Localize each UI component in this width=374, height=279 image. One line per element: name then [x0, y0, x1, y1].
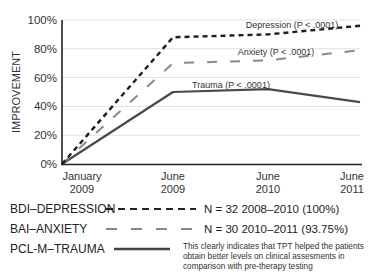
footnote: This clearly indicates that TPT helped t… — [183, 242, 373, 272]
legend-item-anxiety: BAI–ANXIETY N = 30 2010–2011 (93.75%) — [10, 220, 348, 238]
long-dash-line-icon — [104, 224, 198, 234]
legend-item-trauma: PCL-M–TRAUMA — [10, 240, 198, 258]
x-tick-label: 2010 — [256, 183, 280, 195]
legend-note: N = 30 2010–2011 (93.75%) — [204, 223, 348, 235]
x-tick-label: June — [340, 170, 364, 182]
y-tick-label: 0% — [40, 158, 57, 170]
series-annotations: Depression (P < .0001)Anxiety (P < .0001… — [192, 20, 338, 90]
x-tick-label: 2009 — [161, 183, 185, 195]
y-axis-label: IMPROVEMENT — [10, 51, 22, 133]
series-line-pcl-m-trauma — [62, 89, 360, 164]
x-tick-label: January — [62, 170, 102, 182]
dotted-dash-line-icon — [104, 204, 198, 214]
y-tick-label: 80% — [34, 43, 57, 55]
y-tick-label: 100% — [28, 14, 57, 26]
line-chart: 0%20%40%60%80%100% January2009June2009Ju… — [0, 0, 374, 200]
y-tick-label: 20% — [34, 129, 57, 141]
y-axis-ticks: 0%20%40%60%80%100% — [28, 14, 57, 170]
x-tick-label: June — [161, 170, 185, 182]
gridlines — [62, 20, 360, 135]
series-annotation: Depression (P < .0001) — [246, 20, 339, 30]
legend-label: BDI–DEPRESSION — [10, 202, 98, 216]
series-annotation: Trauma (P < .0001) — [192, 80, 270, 90]
legend-item-depression: BDI–DEPRESSION N = 32 2008–2010 (100%) — [10, 200, 339, 218]
series-annotation: Anxiety (P < .0001) — [238, 47, 315, 57]
y-tick-label: 60% — [34, 72, 57, 84]
legend-label: BAI–ANXIETY — [10, 222, 98, 236]
x-axis-ticks: January2009June2009June2010June2011 — [62, 170, 364, 195]
legend-label: PCL-M–TRAUMA — [10, 242, 98, 256]
series-line-bai-anxiety — [62, 50, 360, 164]
x-tick-label: June — [256, 170, 280, 182]
x-tick-label: 2011 — [340, 183, 364, 195]
series-lines — [62, 26, 360, 164]
y-tick-label: 40% — [34, 100, 57, 112]
legend-note: N = 32 2008–2010 (100%) — [204, 203, 339, 215]
x-tick-label: 2009 — [70, 183, 94, 195]
